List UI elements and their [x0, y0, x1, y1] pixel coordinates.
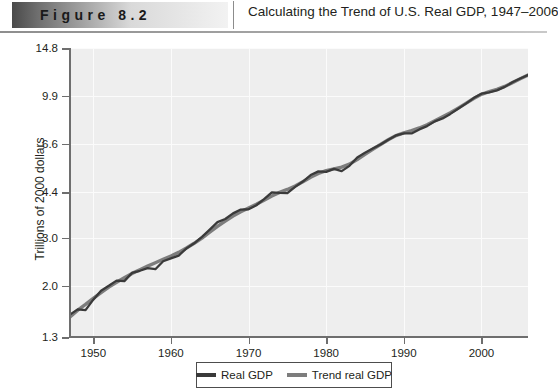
x-axis-tick: [93, 337, 95, 344]
legend-label: Trend real GDP: [312, 369, 392, 381]
x-axis-tick-label: 1980: [313, 347, 339, 359]
legend-color-swatch: [287, 373, 307, 377]
x-axis-tick-label: 2000: [469, 347, 495, 359]
figure-number-tab: Figure 8.2: [12, 2, 228, 28]
x-axis-tick: [481, 337, 483, 344]
y-axis-tick-label: 14.8: [36, 42, 58, 54]
legend-color-swatch: [196, 373, 216, 377]
chart-area: Trillions of 2000 dollars 14.89.96.64.43…: [0, 32, 547, 392]
figure-number-label: Figure 8.2: [12, 7, 151, 23]
y-axis-tick-label: 9.9: [42, 90, 58, 102]
x-axis-tick-label: 1950: [80, 347, 106, 359]
x-axis-tick: [404, 337, 406, 344]
y-axis-tick: [62, 286, 69, 288]
x-axis-tick-label: 1990: [391, 347, 417, 359]
y-axis-tick: [62, 48, 69, 50]
y-axis-tick-label: 1.3: [42, 331, 58, 343]
y-axis-tick-label: 4.4: [42, 186, 58, 198]
y-axis-tick: [62, 192, 69, 194]
series-line-real-gdp: [70, 75, 528, 315]
x-axis-tick-label: 1970: [236, 347, 262, 359]
x-axis-tick: [326, 337, 328, 344]
y-axis-tick: [62, 238, 69, 240]
x-axis-tick: [249, 337, 251, 344]
y-axis-line: [69, 48, 71, 338]
legend-entry: Trend real GDP: [287, 369, 392, 381]
y-axis-tick: [62, 337, 69, 339]
legend-label: Real GDP: [221, 369, 273, 381]
plot-area: [70, 48, 528, 337]
figure-title: Calculating the Trend of U.S. Real GDP, …: [248, 4, 558, 19]
series-line-trend-real-gdp: [70, 75, 528, 317]
legend-entry: Real GDP: [196, 369, 273, 381]
x-axis-tick: [171, 337, 173, 344]
figure-header: Figure 8.2 Calculating the Trend of U.S.…: [0, 0, 547, 32]
x-axis-line: [69, 336, 528, 338]
y-axis-tick-label: 6.6: [42, 138, 58, 150]
chart-legend: Real GDPTrend real GDP: [196, 362, 392, 388]
data-series-canvas: [70, 48, 528, 337]
x-axis-tick-label: 1960: [158, 347, 184, 359]
y-axis-tick-label: 3.0: [42, 232, 58, 244]
y-axis-tick: [62, 144, 69, 146]
y-axis-tick: [62, 96, 69, 98]
header-divider: [233, 1, 234, 29]
y-axis-tick-label: 2.0: [42, 280, 58, 292]
